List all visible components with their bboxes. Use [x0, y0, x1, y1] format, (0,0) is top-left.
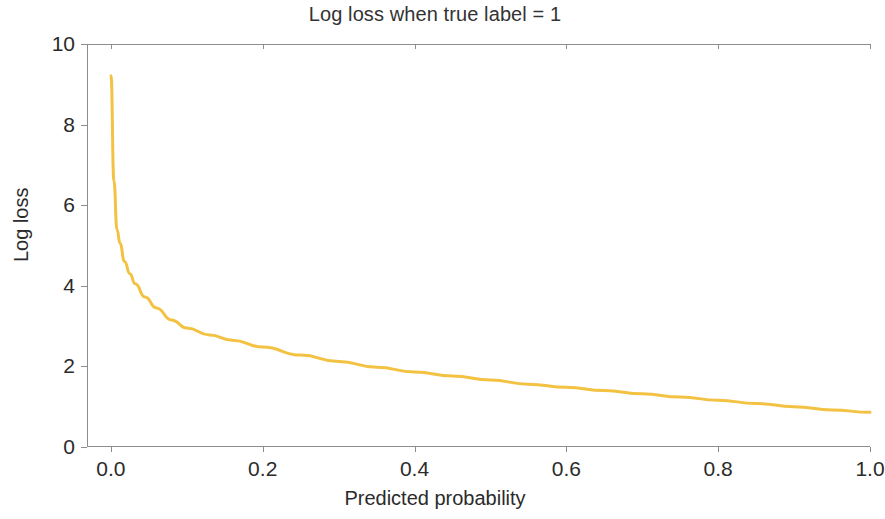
- x-tick-mark: [263, 447, 264, 452]
- y-axis-title: Log loss: [10, 188, 33, 263]
- x-tick-label: 0.6: [552, 457, 581, 481]
- x-tick-mark: [566, 447, 567, 452]
- x-tick-mark: [415, 447, 416, 452]
- y-tick-label: 0: [63, 435, 75, 459]
- x-tick-mark: [111, 447, 112, 452]
- x-tick-label: 0.8: [704, 457, 733, 481]
- y-tick-label: 6: [63, 193, 75, 217]
- x-tick-label: 0.4: [400, 457, 429, 481]
- chart-title: Log loss when true label = 1: [0, 3, 870, 26]
- y-tick-label: 8: [63, 113, 75, 137]
- y-tick-label: 10: [52, 32, 75, 56]
- x-tick-label: 0.2: [248, 457, 277, 481]
- log-loss-curve: [87, 44, 870, 447]
- plot-area: 0246810 0.00.20.40.60.81.0: [87, 44, 870, 447]
- x-tick-mark-top: [870, 44, 871, 49]
- y-tick-mark: [81, 447, 87, 448]
- x-axis-title: Predicted probability: [0, 487, 870, 510]
- x-tick-mark: [870, 447, 871, 452]
- x-tick-mark: [718, 447, 719, 452]
- x-tick-label: 1.0: [855, 457, 884, 481]
- x-tick-label: 0.0: [96, 457, 125, 481]
- y-tick-label: 4: [63, 274, 75, 298]
- y-tick-label: 2: [63, 354, 75, 378]
